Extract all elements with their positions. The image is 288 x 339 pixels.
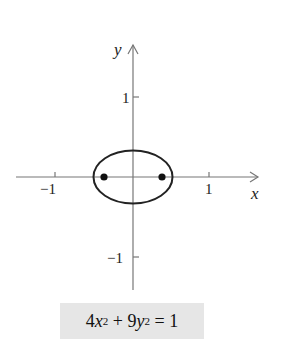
x-axis-label: x [250, 184, 259, 203]
equation-caption: 4x2 + 9y2 = 1 [60, 303, 204, 339]
eq-plus: + [108, 311, 127, 332]
eq-coef1: 4 [86, 311, 95, 332]
focus-right [158, 173, 165, 180]
ellipse-diagram: −1 1 x 1 −1 y [0, 0, 288, 339]
y-axis-label: y [112, 40, 122, 59]
eq-coef2: 9 [128, 311, 137, 332]
eq-var2: y [137, 311, 145, 332]
x-tick-label-pos: 1 [205, 181, 213, 197]
eq-var1: x [95, 311, 103, 332]
x-tick-label-neg: −1 [40, 181, 56, 197]
eq-rhs: = 1 [150, 311, 178, 332]
y-tick-label-neg: −1 [107, 250, 123, 266]
focus-left [100, 173, 107, 180]
y-tick-label-pos: 1 [122, 90, 130, 106]
